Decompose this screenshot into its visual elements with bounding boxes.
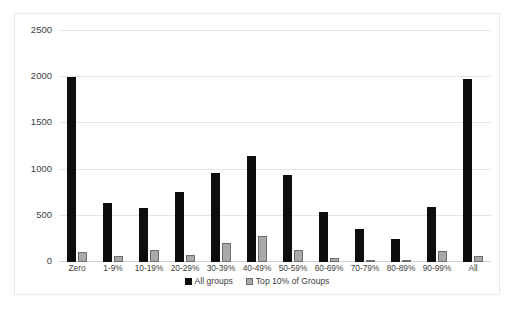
legend-swatch-icon xyxy=(185,278,192,285)
bar-group xyxy=(131,31,167,262)
bar-top-10-percent xyxy=(366,260,375,262)
bar-group xyxy=(311,31,347,262)
bar-all-groups xyxy=(247,156,256,262)
x-axis-tick-label: 90-99% xyxy=(419,264,455,272)
bar-group xyxy=(383,31,419,262)
bar-all-groups xyxy=(391,239,400,262)
bar-all-groups xyxy=(283,175,292,262)
x-axis-tick-labels: Zero1-9%10-19%20-29%30-39%40-49%50-59%60… xyxy=(59,264,491,272)
y-axis-tick-label: 2500 xyxy=(31,25,52,35)
y-axis-tick-label: 1000 xyxy=(31,164,52,174)
bar-all-groups xyxy=(211,173,220,262)
bar-group xyxy=(95,31,131,262)
chart-container: 05001000150020002500 Zero1-9%10-19%20-29… xyxy=(14,13,500,295)
x-axis-tick-label: 50-59% xyxy=(275,264,311,272)
bar-top-10-percent xyxy=(474,256,483,262)
bar-all-groups xyxy=(103,203,112,262)
bar-top-10-percent xyxy=(294,250,303,262)
bar-all-groups xyxy=(67,77,76,262)
bar-all-groups xyxy=(355,229,364,262)
x-axis-tick-label: 60-69% xyxy=(311,264,347,272)
x-axis-tick-label: All xyxy=(455,264,491,272)
x-axis-tick-label: 30-39% xyxy=(203,264,239,272)
bar-all-groups xyxy=(463,79,472,262)
bar-group xyxy=(455,31,491,262)
bar-top-10-percent xyxy=(150,250,159,262)
plot-area: 05001000150020002500 xyxy=(59,31,491,262)
bar-series-group xyxy=(59,31,491,262)
legend-label: All groups xyxy=(195,277,233,286)
bar-top-10-percent xyxy=(114,256,123,262)
y-axis-tick-label: 1500 xyxy=(31,118,52,128)
bar-top-10-percent xyxy=(330,258,339,262)
legend-label: Top 10% of Groups xyxy=(256,277,330,286)
x-axis-tick-label: 40-49% xyxy=(239,264,275,272)
bar-all-groups xyxy=(319,212,328,262)
bar-top-10-percent xyxy=(438,251,447,262)
x-axis-tick-label: 10-19% xyxy=(131,264,167,272)
x-axis-tick-label: Zero xyxy=(59,264,95,272)
bar-group xyxy=(239,31,275,262)
bar-group xyxy=(419,31,455,262)
legend-item[interactable]: Top 10% of Groups xyxy=(246,277,330,286)
bar-group xyxy=(203,31,239,262)
bar-all-groups xyxy=(139,208,148,262)
y-axis-tick-label: 0 xyxy=(47,256,52,266)
legend-swatch-icon xyxy=(246,278,253,285)
bar-top-10-percent xyxy=(258,236,267,262)
x-axis-tick-label: 80-89% xyxy=(383,264,419,272)
bar-group xyxy=(167,31,203,262)
bar-top-10-percent xyxy=(78,252,87,262)
y-axis-tick-label: 500 xyxy=(36,210,52,220)
bar-all-groups xyxy=(427,207,436,262)
bar-top-10-percent xyxy=(402,260,411,262)
bar-top-10-percent xyxy=(222,243,231,262)
bar-group xyxy=(347,31,383,262)
x-axis-tick-label: 20-29% xyxy=(167,264,203,272)
y-axis-tick-label: 2000 xyxy=(31,71,52,81)
bar-all-groups xyxy=(175,192,184,262)
chart-legend: All groupsTop 10% of Groups xyxy=(15,277,499,286)
bar-group xyxy=(59,31,95,262)
bar-group xyxy=(275,31,311,262)
legend-item[interactable]: All groups xyxy=(185,277,233,286)
x-axis-tick-label: 70-79% xyxy=(347,264,383,272)
bar-top-10-percent xyxy=(186,255,195,262)
x-axis-tick-label: 1-9% xyxy=(95,264,131,272)
